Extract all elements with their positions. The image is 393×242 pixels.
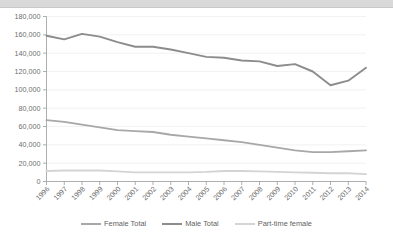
x-tick-label: 1996	[34, 185, 52, 203]
chart-plot-area: 020,00040,00060,00080,000100,000120,0001…	[0, 0, 393, 242]
legend-swatch-icon	[162, 223, 182, 225]
x-tick-label: 2014	[353, 185, 371, 203]
y-tick-label: 0	[37, 177, 41, 186]
y-tick-label: 80,000	[19, 104, 41, 113]
y-tick-label: 60,000	[19, 122, 41, 131]
line-chart: 020,00040,00060,00080,000100,000120,0001…	[0, 0, 393, 242]
legend-item-female-total[interactable]: Female Total	[81, 219, 146, 228]
legend-swatch-icon	[81, 223, 101, 225]
x-tick-label: 1999	[87, 185, 105, 203]
x-tick-label: 2003	[158, 185, 176, 203]
y-tick-label: 20,000	[19, 159, 41, 168]
chart-legend: Female TotalMale TotalPart-time female	[0, 219, 393, 228]
x-tick-label: 2006	[211, 185, 229, 203]
series-line-female-total	[47, 120, 367, 152]
legend-item-male-total[interactable]: Male Total	[162, 219, 219, 228]
x-tick-label: 2013	[335, 185, 353, 203]
x-tick-label: 2012	[318, 185, 336, 203]
y-tick-label: 120,000	[15, 67, 41, 76]
gridlines	[47, 17, 367, 164]
y-tick-label: 180,000	[15, 12, 41, 21]
x-tick-label: 2007	[229, 185, 247, 203]
y-tick-label: 100,000	[15, 85, 41, 94]
legend-label: Male Total	[185, 219, 219, 228]
x-tick-label: 2011	[300, 185, 317, 202]
x-tick-label: 2001	[122, 185, 140, 203]
x-axis-labels: 1996199719981999200020012002200320042005…	[34, 185, 371, 203]
y-axis-ticks	[43, 17, 47, 182]
x-axis-ticks	[47, 182, 367, 186]
x-tick-label: 2002	[140, 185, 158, 203]
legend-item-part-time-female[interactable]: Part-time female	[235, 219, 312, 228]
series-line-part-time-female	[47, 171, 367, 175]
legend-label: Part-time female	[258, 219, 312, 228]
y-tick-label: 140,000	[15, 49, 41, 58]
y-axis-labels: 020,00040,00060,00080,000100,000120,0001…	[15, 12, 41, 186]
x-tick-label: 2000	[105, 185, 123, 203]
x-tick-label: 1997	[51, 185, 69, 203]
x-tick-label: 1998	[69, 185, 87, 203]
legend-label: Female Total	[104, 219, 146, 228]
x-tick-label: 2010	[282, 185, 300, 203]
x-tick-label: 2008	[247, 185, 265, 203]
x-tick-label: 2009	[264, 185, 282, 203]
y-tick-label: 160,000	[15, 30, 41, 39]
series-lines	[47, 34, 367, 174]
legend-swatch-icon	[235, 223, 255, 225]
x-tick-label: 2004	[176, 185, 194, 203]
x-tick-label: 2005	[193, 185, 211, 203]
series-line-male-total	[47, 34, 367, 85]
y-tick-label: 40,000	[19, 140, 41, 149]
